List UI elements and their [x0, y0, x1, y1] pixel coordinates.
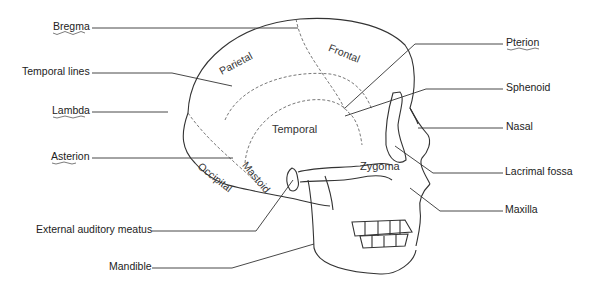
auditory-meatus [287, 168, 299, 191]
leader-temporal-lines [92, 73, 232, 86]
leader-pterion [345, 44, 503, 108]
coronal-suture [296, 19, 345, 110]
maxilla-profile [416, 184, 430, 246]
label-bregma: Bregma [53, 21, 90, 32]
label-pterion: Pterion [506, 37, 539, 48]
sphenoid-boundary [348, 112, 362, 145]
leader-lacrimal-fossa [395, 146, 503, 173]
asterion-underline [52, 162, 76, 164]
region-temporal: Temporal [272, 124, 317, 135]
label-lacrimal-fossa: Lacrimal fossa [505, 166, 573, 177]
label-temporal-lines: Temporal lines [22, 66, 90, 77]
label-external-auditory-meatus: External auditory meatus [36, 224, 152, 235]
label-asterion: Asterion [51, 151, 90, 162]
lambda-underline [53, 116, 85, 118]
label-lambda: Lambda [52, 105, 90, 116]
label-nasal: Nasal [506, 121, 533, 132]
nasal-profile [410, 108, 430, 184]
leader-mandible [152, 244, 314, 268]
pterion-underline [507, 48, 539, 50]
label-mandible: Mandible [109, 261, 152, 272]
region-zygoma: Zygoma [360, 161, 400, 172]
label-sphenoid: Sphenoid [506, 82, 550, 93]
temporal-line [225, 73, 372, 120]
label-maxilla: Maxilla [505, 204, 538, 215]
